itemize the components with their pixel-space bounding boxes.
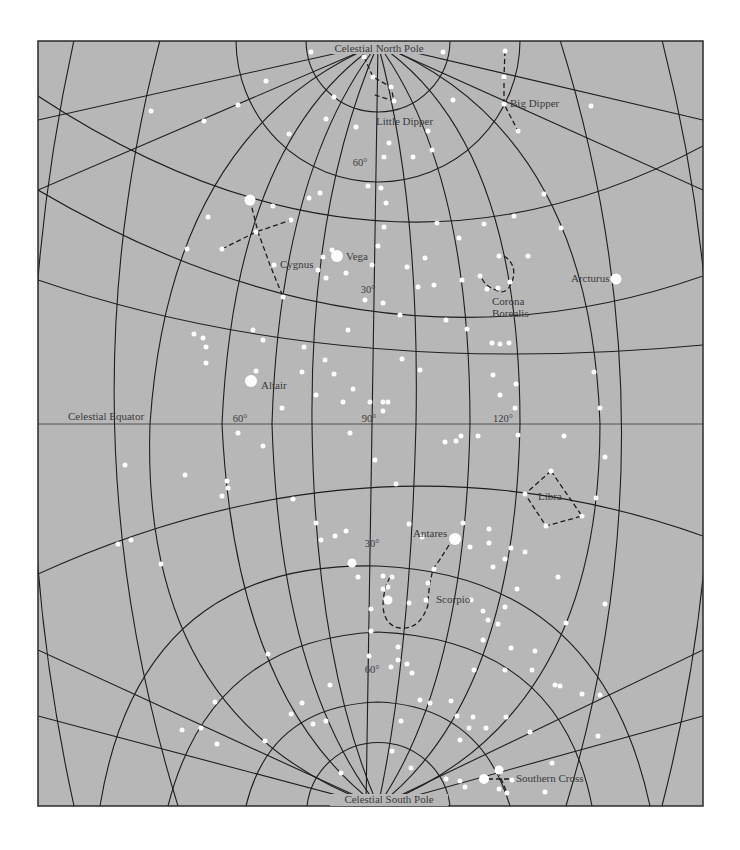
star-label-arcturus: Arcturus <box>571 272 610 284</box>
constellation-label-big-dipper: Big Dipper <box>510 97 560 109</box>
degree-label-eq120: 120° <box>493 413 513 424</box>
star-arcturus <box>611 274 622 285</box>
constellation-label-scorpio: Scorpio <box>436 593 471 605</box>
star-altair <box>245 375 257 387</box>
degree-label-s30: 30° <box>365 538 380 549</box>
star-label-altair: Altair <box>261 379 287 391</box>
star-label-vega: Vega <box>346 250 368 262</box>
star-label-antares: Antares <box>413 527 447 539</box>
constellation-label-libra: Libra <box>538 490 562 502</box>
south-pole-label: Celestial South Pole <box>344 793 433 805</box>
constellation-label-cygnus: Cygnus <box>280 258 314 270</box>
star-antares <box>449 533 461 545</box>
star-deneb <box>245 195 256 206</box>
degree-label-eq60: 60° <box>233 413 248 424</box>
celestial-equator-label: Celestial Equator <box>68 410 144 422</box>
constellation-label-little-dipper: Little Dipper <box>376 115 433 127</box>
degree-label-s60: 60° <box>365 664 380 675</box>
degree-label-n30: 30° <box>361 284 376 295</box>
star-map: Celestial North Pole Celestial South Pol… <box>0 0 740 850</box>
constellation-label-borealis: Borealis <box>492 307 529 319</box>
degree-label-n60: 60° <box>353 157 368 168</box>
north-pole-label: Celestial North Pole <box>334 42 423 54</box>
constellation-label-corona: Corona <box>492 295 525 307</box>
degree-label-eq90: 90° <box>362 413 377 424</box>
constellation-label-southern-cross: Southern Cross <box>516 772 584 784</box>
